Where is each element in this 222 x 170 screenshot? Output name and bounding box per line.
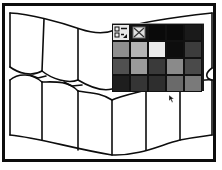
swatch-r2c0[interactable] (112, 58, 130, 75)
no-fill-x-icon (132, 26, 146, 39)
swatch-r3c2[interactable] (148, 75, 166, 92)
swatch-r3c4[interactable] (184, 75, 202, 92)
swatch-r3c3[interactable] (166, 75, 184, 92)
swatch-r2c1[interactable] (130, 58, 148, 75)
swatch-r2c4[interactable] (184, 58, 202, 75)
swatch-r1c2[interactable] (148, 41, 166, 58)
swatch-r2c2[interactable] (148, 58, 166, 75)
bottom-wave-edge (10, 135, 212, 155)
swatch-r1c4[interactable] (184, 41, 202, 58)
swatch-r0c3[interactable] (166, 24, 184, 41)
palette-tool-toggle[interactable] (112, 24, 130, 41)
color-palette-popup (112, 23, 204, 91)
swatch-r2c3[interactable] (166, 58, 184, 75)
swatch-r0c2[interactable] (148, 24, 166, 41)
swatch-r3c1[interactable] (130, 75, 148, 92)
swatch-r1c0[interactable] (112, 41, 130, 58)
swatch-r1c1[interactable] (130, 41, 148, 58)
swatch-r0c4[interactable] (184, 24, 202, 41)
swatch-none[interactable] (130, 24, 148, 41)
arrow-pointer-icon (169, 95, 175, 103)
swatch-r1c3[interactable] (166, 41, 184, 58)
swatch-r3c0[interactable] (112, 75, 130, 92)
fill-stroke-swatch-icon (114, 26, 128, 39)
